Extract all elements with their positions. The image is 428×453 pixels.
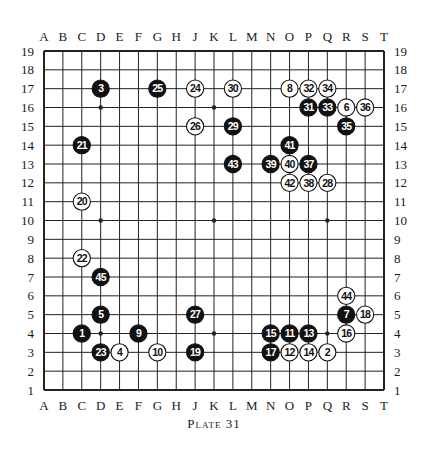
black-stone: 21 (73, 137, 90, 154)
move-number: 41 (285, 139, 296, 151)
column-label: A (39, 29, 49, 44)
move-number: 12 (285, 346, 296, 358)
move-number: 32 (303, 82, 314, 94)
column-label: E (116, 398, 124, 413)
star-point (98, 105, 102, 109)
column-label: G (153, 398, 162, 413)
column-label: L (229, 29, 237, 44)
black-stone: 29 (224, 118, 241, 135)
row-label: 15 (21, 119, 34, 134)
white-stone: 12 (281, 344, 298, 361)
move-number: 11 (285, 327, 295, 339)
white-stone: 26 (187, 118, 204, 135)
white-stone: 36 (357, 99, 374, 116)
row-label: 3 (28, 345, 35, 360)
white-stone: 32 (300, 80, 317, 97)
move-number: 21 (77, 139, 88, 151)
column-label: H (172, 398, 181, 413)
row-label: 14 (394, 138, 408, 153)
move-number: 45 (96, 271, 107, 283)
row-label: 18 (21, 62, 34, 77)
black-stone: 13 (300, 325, 317, 342)
row-label: 4 (28, 326, 35, 341)
move-number: 17 (266, 346, 277, 358)
white-stone: 2 (319, 344, 336, 361)
row-label: 13 (21, 157, 34, 172)
white-stone: 16 (338, 325, 355, 342)
black-stone: 3 (92, 80, 109, 97)
row-label: 2 (28, 364, 35, 379)
column-label: D (96, 398, 105, 413)
column-label: T (380, 398, 388, 413)
star-point (98, 331, 102, 335)
row-label: 16 (21, 100, 35, 115)
row-label: 8 (28, 251, 35, 266)
move-number: 29 (228, 120, 239, 132)
black-stone: 35 (338, 118, 355, 135)
move-number: 38 (303, 177, 314, 189)
star-point (325, 218, 329, 222)
black-stone: 45 (92, 268, 109, 285)
black-stone: 9 (130, 325, 147, 342)
star-point (212, 105, 216, 109)
column-label: P (305, 29, 312, 44)
row-label: 8 (394, 251, 401, 266)
row-label: 10 (21, 213, 34, 228)
column-label: J (193, 398, 198, 413)
move-number: 25 (152, 82, 163, 94)
plate-caption: Plate 31 (0, 416, 428, 432)
row-label: 11 (394, 194, 407, 209)
row-label: 12 (394, 175, 407, 190)
black-stone: 23 (92, 344, 109, 361)
star-point (98, 218, 102, 222)
column-label: M (246, 398, 258, 413)
column-label: K (209, 398, 219, 413)
white-stone: 14 (300, 344, 317, 361)
move-number: 36 (360, 101, 371, 113)
white-stone: 18 (357, 306, 374, 323)
column-label: C (77, 398, 86, 413)
row-label: 5 (394, 307, 401, 322)
row-label: 12 (21, 175, 34, 190)
row-label: 6 (394, 288, 401, 303)
white-stone: 6 (338, 99, 355, 116)
black-stone: 25 (149, 80, 166, 97)
row-label: 7 (394, 270, 401, 285)
column-label: P (305, 398, 312, 413)
white-stone: 8 (281, 80, 298, 97)
row-labels-left: 19181716151413121110987654321 (21, 44, 35, 398)
row-label: 5 (28, 307, 35, 322)
move-number: 15 (266, 327, 277, 339)
column-label: R (342, 398, 351, 413)
column-label: N (266, 29, 276, 44)
black-stone: 7 (338, 306, 355, 323)
column-label: J (193, 29, 198, 44)
white-stone: 24 (187, 80, 204, 97)
row-label: 6 (28, 288, 35, 303)
column-label: B (59, 29, 68, 44)
row-label: 13 (394, 157, 407, 172)
move-number: 39 (266, 158, 277, 170)
column-label: R (342, 29, 351, 44)
star-point (325, 331, 329, 335)
column-label: M (246, 29, 258, 44)
column-label: K (209, 29, 219, 44)
black-stone: 5 (92, 306, 109, 323)
row-label: 11 (21, 194, 34, 209)
move-number: 43 (228, 158, 239, 170)
row-label: 7 (28, 270, 35, 285)
row-label: 2 (394, 364, 401, 379)
white-stone: 10 (149, 344, 166, 361)
column-label: T (380, 29, 388, 44)
move-number: 18 (360, 308, 371, 320)
move-number: 40 (285, 158, 296, 170)
move-number: 23 (96, 346, 107, 358)
row-label: 9 (28, 232, 35, 247)
move-number: 10 (152, 346, 163, 358)
row-label: 14 (21, 138, 35, 153)
row-label: 1 (28, 383, 35, 398)
row-label: 18 (394, 62, 407, 77)
move-number: 34 (322, 82, 333, 94)
move-number: 14 (303, 346, 314, 358)
column-labels-top: ABCDEFGHJKLMNOPQRST (39, 29, 388, 44)
